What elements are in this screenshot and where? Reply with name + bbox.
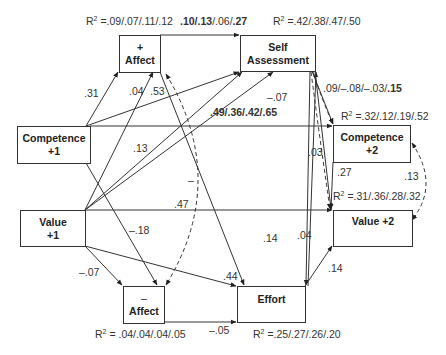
path-arrows [0, 0, 446, 355]
coef-neg-affect-to-self: –.07 [267, 91, 287, 103]
node-label: Affect [129, 305, 159, 318]
coef-pos-affect-to-effort: .53 [150, 85, 165, 97]
coef-comp2-to-value2: .27 [337, 166, 352, 178]
r2-self-assessment: R2 =.42/.38/.47/.50 [273, 15, 361, 27]
node-effort: Effort [237, 286, 306, 323]
coef-value1-to-effort: .44 [223, 270, 238, 282]
node-competence-2: Competence +2 [333, 125, 411, 163]
node-positive-affect: + Affect [119, 35, 161, 73]
node-label-line2: +1 [48, 145, 60, 158]
node-value-1: Value +1 [20, 210, 86, 247]
node-label-line1: Competence [340, 131, 403, 144]
coef-effort-to-value2: .14 [328, 262, 343, 274]
coef-value1-to-pos-affect: .04 [129, 85, 144, 97]
node-label-line2: +2 [366, 144, 378, 157]
coef-comp2-value2-covariance: .13 [404, 170, 419, 182]
node-label-line2: +1 [47, 229, 59, 242]
coef-comp1-to-self: .13 [133, 142, 148, 154]
coef-effort-to-self: .04 [297, 229, 312, 241]
node-label-line2: Assessment [247, 54, 309, 67]
r2-effort: R2 =.25/.27/.26/.20 [253, 328, 341, 340]
node-self-assessment: Self Assessment [240, 35, 316, 72]
coef-neg-affect-to-effort: –.05 [209, 324, 229, 336]
positive-sign: + [137, 41, 143, 54]
coef-self-to-comp2: .09/–.08/–.03/.15 [323, 82, 402, 94]
coef-comp1-to-pos-affect: .31 [84, 87, 99, 99]
coef-value1-to-comp2: .47 [174, 198, 189, 210]
node-label-line1: Competence [22, 132, 85, 145]
node-value-2: Value +2 [333, 210, 413, 247]
coef-pos-affect-to-self: .10/.13/.06/.27 [180, 15, 247, 27]
coef-value1-to-neg-affect: –.07 [79, 266, 99, 278]
r2-value-2: R2 =.31/.36/.28/.32 [333, 190, 421, 202]
r2-negative-affect: R2 = .04/.04/.04/.05 [95, 328, 186, 340]
coef-value1-to-self: .49/.36/.42/.65 [210, 106, 277, 118]
node-label: Value +2 [352, 215, 394, 228]
node-label: Affect [125, 54, 155, 67]
node-label-line1: Value [39, 216, 66, 229]
node-label-line1: Self [268, 41, 287, 54]
r2-positive-affect: R2 =.09/.07/.11/.12 [86, 15, 173, 27]
node-label: Effort [258, 293, 286, 306]
negative-sign: – [141, 292, 147, 305]
r2-competence-2: R2 =.32/.12/.19/.52 [341, 110, 429, 122]
coef-comp1-to-neg-affect: –.18 [129, 224, 149, 236]
coef-pos-neg-affect-covariance: – [188, 174, 194, 186]
node-competence-1: Competence +1 [17, 126, 91, 164]
coef-self-to-value2: .03 [308, 146, 323, 158]
node-negative-affect: – Affect [123, 286, 165, 324]
coef-self-to-effort: .14 [263, 232, 278, 244]
